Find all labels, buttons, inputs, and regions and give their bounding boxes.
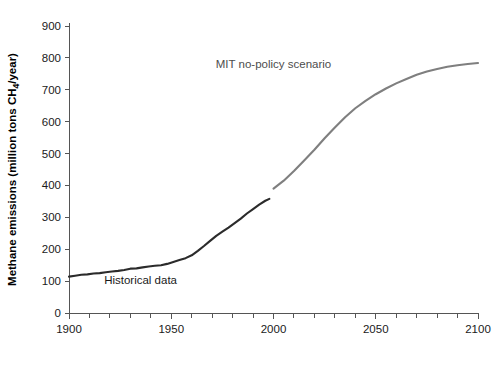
x-tick-label: 1900 — [56, 323, 82, 335]
y-axis-tick-labels: 0100200300400500600700800900 — [42, 20, 61, 319]
x-tick-label: 2100 — [465, 323, 491, 335]
x-axis-tick-marks — [69, 313, 478, 319]
x-tick-label: 2000 — [261, 323, 287, 335]
y-tick-label: 300 — [42, 211, 61, 223]
y-tick-label: 200 — [42, 243, 61, 255]
y-tick-label: 900 — [42, 20, 61, 32]
y-tick-label: 400 — [42, 179, 61, 191]
y-tick-label: 600 — [42, 116, 61, 128]
x-tick-label: 2050 — [363, 323, 389, 335]
methane-emissions-figure: 0100200300400500600700800900 19001950200… — [0, 0, 503, 373]
series-label-mit-no-policy-scenario: MIT no-policy scenario — [216, 58, 331, 70]
data-series-group — [69, 63, 478, 277]
y-axis-tick-marks — [65, 26, 69, 313]
series-line-historical-data — [69, 199, 269, 277]
y-tick-label: 500 — [42, 148, 61, 160]
y-tick-label: 100 — [42, 275, 61, 287]
x-tick-label: 1950 — [158, 323, 184, 335]
x-axis-tick-labels: 19001950200020502100 — [56, 323, 491, 335]
line-chart: 0100200300400500600700800900 19001950200… — [0, 0, 503, 373]
series-label-historical-data: Historical data — [104, 274, 177, 286]
series-line-mit-no-policy-scenario — [274, 63, 479, 189]
y-tick-label: 800 — [42, 52, 61, 64]
y-tick-label: 0 — [55, 307, 61, 319]
y-tick-label: 700 — [42, 84, 61, 96]
series-annotations: Historical dataMIT no-policy scenario — [104, 58, 331, 286]
y-axis-title: Methane emissions (million tons CH4/year… — [6, 53, 21, 286]
